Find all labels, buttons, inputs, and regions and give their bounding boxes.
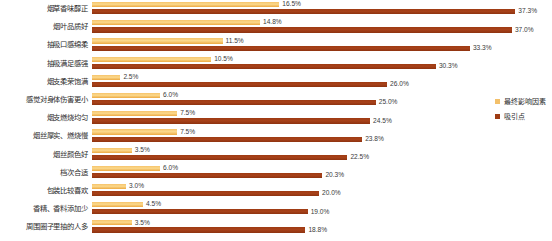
legend-item-0[interactable]: 最终影响因素 (495, 96, 546, 106)
legend-swatch-icon (495, 99, 500, 104)
bar-final-factor[interactable]: 10.5% (92, 57, 233, 62)
bar-attraction-point[interactable]: 19.0% (92, 209, 329, 214)
bar-fill (92, 82, 387, 87)
bar-attraction-point[interactable]: 20.0% (92, 191, 341, 196)
bar-fill (92, 2, 279, 7)
bar-final-factor[interactable]: 4.5% (92, 202, 161, 207)
chart-category-row: 抽吸满足感强10.5%30.3% (0, 55, 552, 73)
bar-value-label: 3.5% (135, 220, 150, 227)
bar-attraction-point[interactable]: 37.0% (92, 27, 534, 32)
category-label: 周围圈子里抽的人多 (0, 218, 92, 236)
bars-zone: 3.0%20.0% (92, 182, 552, 200)
category-label: 包装比较喜欢 (0, 182, 92, 200)
category-label: 烟叶品质好 (0, 18, 92, 36)
bar-final-factor[interactable]: 16.5% (92, 2, 301, 7)
category-label: 烟支燃烧均匀 (0, 109, 92, 127)
bar-final-factor[interactable]: 3.5% (92, 148, 150, 153)
bar-fill (92, 57, 211, 62)
bar-final-factor[interactable]: 3.5% (92, 220, 150, 225)
bar-attraction-point[interactable]: 22.5% (92, 155, 369, 160)
bar-fill (92, 93, 160, 98)
bar-attraction-point[interactable]: 37.3% (92, 9, 537, 14)
bar-fill (92, 38, 223, 43)
bar-value-label: 7.5% (180, 110, 195, 117)
horizontal-bar-chart: 烟草香味醇正16.5%37.3%烟叶品质好14.8%37.0%抽吸口感绵柔11.… (0, 0, 552, 241)
bar-value-label: 4.5% (146, 201, 161, 208)
plot-area: 烟草香味醇正16.5%37.3%烟叶品质好14.8%37.0%抽吸口感绵柔11.… (0, 0, 552, 241)
legend-label: 吸引点 (504, 111, 525, 121)
chart-category-row: 烟草香味醇正16.5%37.3% (0, 0, 552, 18)
legend-item-1[interactable]: 吸引点 (495, 111, 546, 121)
bar-value-label: 24.5% (373, 118, 392, 125)
bar-value-label: 33.3% (473, 45, 492, 52)
category-label: 烟丝颜色好 (0, 146, 92, 164)
category-label: 烟草香味醇正 (0, 0, 92, 18)
chart-category-row: 周围圈子里抽的人多3.5%18.8% (0, 218, 552, 236)
bar-value-label: 6.0% (163, 165, 178, 172)
legend-swatch-icon (495, 114, 500, 119)
bars-zone: 4.5%19.0% (92, 200, 552, 218)
bar-fill (92, 166, 160, 171)
bar-final-factor[interactable]: 7.5% (92, 111, 195, 116)
bar-fill (92, 155, 347, 160)
bar-value-label: 6.0% (163, 92, 178, 99)
bar-attraction-point[interactable]: 33.3% (92, 46, 492, 51)
bar-value-label: 37.0% (515, 27, 534, 34)
bar-value-label: 26.0% (390, 81, 409, 88)
bars-zone: 11.5%33.3% (92, 36, 552, 54)
bar-value-label: 20.3% (325, 172, 344, 179)
bar-value-label: 25.0% (379, 99, 398, 106)
bar-fill (92, 148, 132, 153)
bar-final-factor[interactable]: 2.5% (92, 75, 138, 80)
bar-fill (92, 173, 322, 178)
bar-final-factor[interactable]: 14.8% (92, 20, 282, 25)
bar-value-label: 23.8% (365, 136, 384, 143)
bar-value-label: 2.5% (123, 74, 138, 81)
bar-attraction-point[interactable]: 25.0% (92, 100, 397, 105)
chart-category-row: 烟叶品质好14.8%37.0% (0, 18, 552, 36)
bar-fill (92, 9, 515, 14)
chart-category-row: 香精、香料添加少4.5%19.0% (0, 200, 552, 218)
bar-fill (92, 111, 177, 116)
bar-fill (92, 27, 512, 32)
category-label: 香精、香料添加少 (0, 200, 92, 218)
bar-fill (92, 184, 126, 189)
bars-zone: 7.5%23.8% (92, 127, 552, 145)
bar-fill (92, 64, 436, 69)
bar-value-label: 19.0% (311, 209, 330, 216)
chart-category-row: 档次合适6.0%20.3% (0, 164, 552, 182)
bar-fill (92, 100, 376, 105)
bar-fill (92, 209, 308, 214)
bars-zone: 16.5%37.3% (92, 0, 552, 18)
bar-fill (92, 220, 132, 225)
bar-attraction-point[interactable]: 18.8% (92, 227, 327, 232)
chart-legend: 最终影响因素 吸引点 (495, 96, 546, 121)
bar-attraction-point[interactable]: 24.5% (92, 118, 392, 123)
bar-value-label: 7.5% (180, 129, 195, 136)
bar-fill (92, 20, 260, 25)
legend-label: 最终影响因素 (504, 96, 546, 106)
bar-value-label: 20.0% (322, 190, 341, 197)
chart-category-row: 烟丝厚实、燃烧慢7.5%23.8% (0, 127, 552, 145)
bar-attraction-point[interactable]: 20.3% (92, 173, 344, 178)
bar-fill (92, 202, 143, 207)
bar-attraction-point[interactable]: 30.3% (92, 64, 458, 69)
bar-fill (92, 75, 120, 80)
bar-attraction-point[interactable]: 26.0% (92, 82, 409, 87)
chart-category-row: 抽吸口感绵柔11.5%33.3% (0, 36, 552, 54)
bar-fill (92, 129, 177, 134)
bar-final-factor[interactable]: 11.5% (92, 38, 244, 43)
bar-final-factor[interactable]: 3.0% (92, 184, 144, 189)
bar-attraction-point[interactable]: 23.8% (92, 137, 384, 142)
bar-final-factor[interactable]: 6.0% (92, 166, 178, 171)
bar-fill (92, 46, 470, 51)
bars-zone: 3.5%18.8% (92, 218, 552, 236)
bars-zone: 7.5%24.5% (92, 109, 552, 127)
bar-final-factor[interactable]: 6.0% (92, 93, 178, 98)
category-label: 烟丝厚实、燃烧慢 (0, 127, 92, 145)
bar-final-factor[interactable]: 7.5% (92, 129, 195, 134)
bar-value-label: 10.5% (214, 56, 233, 63)
category-label: 档次合适 (0, 164, 92, 182)
bar-fill (92, 191, 319, 196)
bar-value-label: 3.0% (129, 183, 144, 190)
